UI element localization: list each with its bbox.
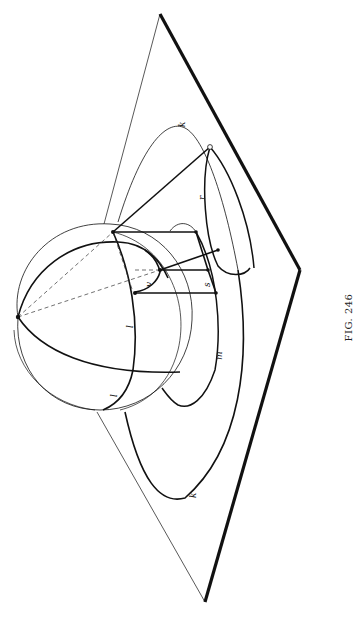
label-k-top: k: [177, 122, 187, 127]
label-s: s: [202, 282, 212, 287]
curve-r: [205, 147, 254, 275]
plane: [97, 14, 300, 602]
label-k-bottom: k: [188, 493, 198, 498]
ellipse-m: [162, 224, 218, 407]
projection-lines: [113, 147, 218, 293]
labels: k r v s m l l k: [109, 122, 224, 498]
label-m: m: [214, 351, 224, 360]
label-l-lower: l: [109, 394, 119, 397]
pole-point: [16, 315, 20, 319]
figure-caption: FIG. 246: [343, 288, 354, 348]
great-circles: [18, 232, 180, 410]
ellipse-k: [118, 126, 243, 499]
label-r: r: [197, 195, 207, 200]
label-l-upper: l: [125, 325, 135, 328]
sphere: [14, 224, 192, 410]
label-v: v: [144, 282, 154, 287]
